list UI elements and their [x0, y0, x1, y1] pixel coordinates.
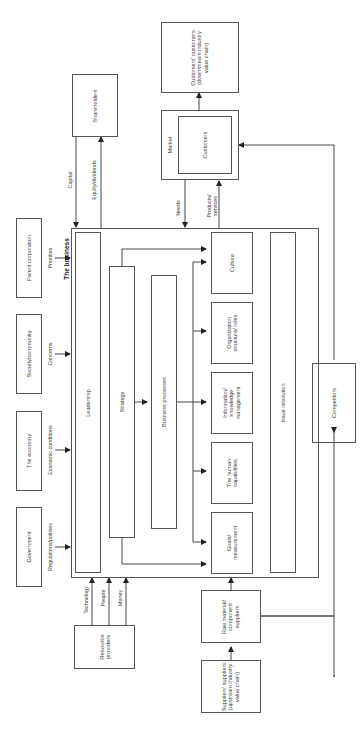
- node-business-processes: Business processes: [151, 275, 177, 529]
- node-market: Market Customers: [161, 110, 239, 180]
- node-upstream-suppliers: Suppliers' suppliers (upstream industry …: [201, 660, 261, 713]
- node-economy: The economy: [16, 411, 42, 491]
- organization-label: Organization structure/ roles: [226, 309, 239, 357]
- edge-money: Money: [117, 590, 123, 606]
- edge-concerns: Concerns: [47, 342, 53, 365]
- leadership-label: Leadership: [85, 389, 91, 417]
- downstream-label: Customers' customers (downstream industr…: [190, 27, 209, 89]
- node-resource-providers: Resource providers: [74, 625, 135, 669]
- node-competitors: Competitors: [312, 363, 356, 443]
- node-goals: Goals/ measurement: [211, 512, 253, 574]
- competitors-label: Competitors: [331, 388, 337, 418]
- market-label: Market: [167, 136, 173, 153]
- node-strategy: Strategy: [109, 266, 135, 538]
- node-government: Government: [16, 507, 42, 587]
- edge-products: Products/ services: [206, 192, 219, 220]
- node-organization: Organization structure/ roles: [211, 302, 253, 364]
- government-label: Government: [26, 532, 32, 563]
- node-society: Society/community: [16, 314, 42, 394]
- node-parent-corporation: Parent corporation: [16, 218, 42, 298]
- node-customers: Customers: [178, 116, 232, 174]
- node-issue-resolution: Issue resolution: [270, 232, 296, 573]
- edge-needs: Needs: [175, 200, 181, 216]
- economy-label: The economy: [26, 434, 32, 468]
- edge-capital: Capital: [67, 172, 73, 189]
- resource-providers-label: Resource providers: [98, 627, 111, 667]
- node-downstream-customers: Customers' customers (downstream industr…: [161, 22, 239, 93]
- edge-people: People: [100, 590, 106, 607]
- node-information: Information/ knowledge management: [211, 372, 253, 434]
- shareholders-label: Shareholders: [92, 89, 98, 122]
- culture-label: Culture: [229, 254, 235, 272]
- node-human-capabilities: The human capabilities: [211, 442, 253, 504]
- node-culture: Culture: [211, 232, 253, 294]
- strategy-label: Strategy: [119, 392, 125, 413]
- node-raw-material: Raw material/ component suppliers: [201, 590, 261, 643]
- business-title: The business: [64, 238, 70, 280]
- raw-material-label: Raw material/ component suppliers: [221, 593, 240, 641]
- society-label: Society/community: [26, 331, 32, 378]
- arrow-suppliers-competitors: [261, 616, 334, 677]
- edge-equity: Equity/dividends: [91, 160, 97, 199]
- issue-resolution-label: Issue resolution: [280, 383, 286, 422]
- edge-regulations: Regulations/policies: [47, 523, 53, 571]
- goals-label: Goals/ measurement: [226, 518, 239, 568]
- node-shareholders: Shareholders: [72, 74, 118, 137]
- customers-label: Customers: [202, 131, 208, 158]
- edge-economic: Economic conditions: [47, 425, 53, 474]
- business-processes-label: Business processes: [161, 377, 167, 427]
- edge-technology: Technology: [83, 586, 89, 613]
- human-label: The human capabilities: [226, 451, 239, 495]
- edge-priorities: Priorities: [47, 248, 53, 269]
- parent-label: Parent corporation: [26, 235, 32, 281]
- node-leadership: Leadership: [75, 232, 101, 573]
- information-label: Information/ knowledge management: [222, 377, 241, 429]
- upstream-label: Suppliers' suppliers (upstream industry …: [221, 662, 240, 712]
